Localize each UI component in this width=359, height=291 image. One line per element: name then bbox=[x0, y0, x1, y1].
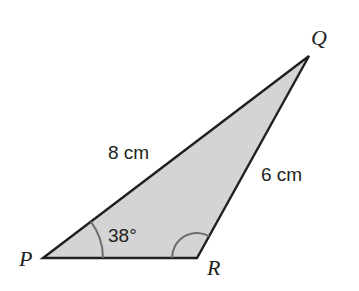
side-label-pq: 8 cm bbox=[108, 142, 149, 163]
triangle-pqr bbox=[43, 56, 309, 258]
vertex-label-p: P bbox=[18, 246, 32, 271]
side-label-qr: 6 cm bbox=[261, 164, 302, 185]
angle-label-p: 38° bbox=[108, 225, 137, 246]
vertex-label-q: Q bbox=[311, 25, 327, 50]
triangle-diagram: P Q R 8 cm 6 cm 38° bbox=[0, 0, 359, 291]
vertex-label-r: R bbox=[206, 255, 221, 280]
